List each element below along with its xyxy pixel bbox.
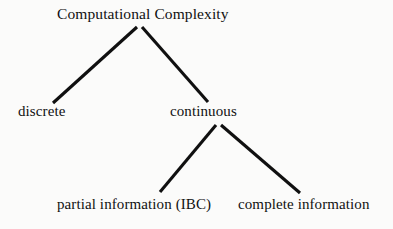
tree-node-discrete: discrete xyxy=(18,104,65,119)
edge-continuous-to-complete xyxy=(221,125,300,193)
tree-node-partial-information-ibc: partial information (IBC) xyxy=(57,197,211,212)
edge-root-to-discrete xyxy=(53,27,137,103)
edge-root-to-continuous xyxy=(142,27,208,102)
edge-continuous-to-partial xyxy=(160,125,216,192)
tree-node-complete-information: complete information xyxy=(238,197,370,212)
tree-node-computational-complexity: Computational Complexity xyxy=(57,6,229,22)
tree-node-continuous: continuous xyxy=(170,104,237,119)
tree-diagram: Computational Complexity discrete contin… xyxy=(0,0,393,229)
